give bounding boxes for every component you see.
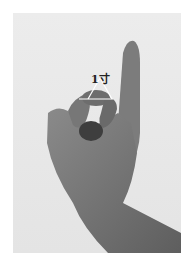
hand-illustration	[13, 13, 181, 253]
measurement-label: 1寸	[91, 70, 110, 86]
hand-photo: 1寸	[13, 13, 181, 253]
